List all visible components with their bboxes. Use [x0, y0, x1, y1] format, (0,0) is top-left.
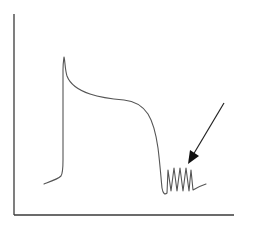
- annotation-arrow-shaft: [193, 103, 224, 155]
- annotation-arrow-head: [188, 150, 199, 164]
- action-potential-diagram: [0, 0, 255, 226]
- diagram-canvas: [0, 0, 255, 226]
- action-potential-trace: [44, 57, 206, 194]
